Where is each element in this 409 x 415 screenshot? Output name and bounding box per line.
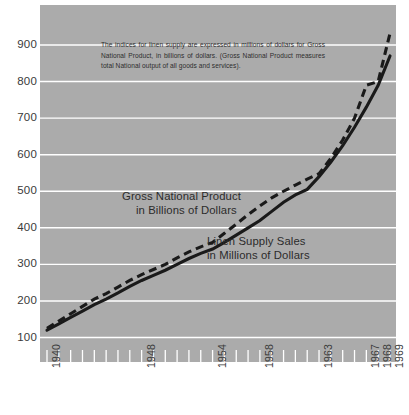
x-axis-tick-label: 1963 xyxy=(323,344,334,368)
series-caption-gnp: Gross National Product in Billions of Do… xyxy=(122,189,241,218)
series-caption-linen-line2: in Millions of Dollars xyxy=(207,248,310,262)
x-axis-tick-label: 1940 xyxy=(51,344,62,368)
series-caption-linen-line1: Linen Supply Sales xyxy=(207,234,310,248)
x-axis-tick-label: 1958 xyxy=(264,344,275,368)
series-caption-gnp-line2: in Billions of Dollars xyxy=(122,203,241,217)
chart-annotation-note: The indices for linen supply are express… xyxy=(101,40,325,72)
x-axis-tick-label: 1948 xyxy=(146,344,157,368)
x-axis-tick-label: 1968 xyxy=(382,344,393,368)
series-caption-gnp-line1: Gross National Product xyxy=(122,189,241,203)
linen-supply-gnp-chart: 100200300400500600700800900 194019481954… xyxy=(0,0,409,415)
x-axis-tick-label: 1954 xyxy=(217,344,228,368)
x-axis-tick-label: 1969 xyxy=(394,344,405,368)
series-caption-linen: Linen Supply Sales in Millions of Dollar… xyxy=(207,234,310,263)
x-axis-tick-label: 1967 xyxy=(370,344,381,368)
